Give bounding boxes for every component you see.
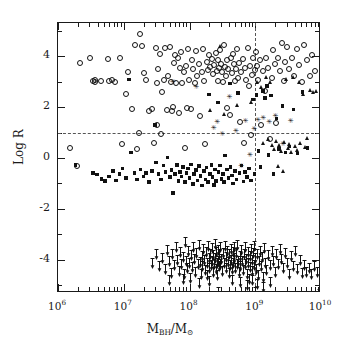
- data-point-down-arrow: [184, 256, 189, 267]
- data-point-filled-triangle: [295, 148, 299, 152]
- data-point-filled-square: [168, 175, 172, 179]
- data-point-down-arrow: [209, 260, 214, 271]
- x-minor-tick: [98, 287, 99, 291]
- data-point-open-circle: [202, 141, 208, 147]
- x-tick-label: 109: [232, 298, 276, 312]
- data-point-open-circle: [193, 48, 199, 54]
- data-point-open-circle: [146, 108, 152, 114]
- y-major-tick: [58, 56, 65, 57]
- x-minor-tick: [221, 23, 222, 27]
- data-point-filled-triangle: [303, 145, 307, 149]
- data-point-down-arrow: [217, 261, 222, 272]
- data-point-down-arrow: [221, 248, 226, 259]
- data-point-down-arrow: [247, 274, 252, 285]
- x-tick-label: 108: [167, 298, 211, 312]
- data-point-down-arrow: [197, 240, 202, 251]
- x-minor-tick: [78, 287, 79, 291]
- y-tick-label: -2: [19, 201, 50, 214]
- scatter-plot-figure: ✳✳✳✳✳✳✳✳✳✳✳✳✳✳✳✳✳ 1061071081091010 420-2…: [0, 0, 340, 347]
- data-point-down-arrow: [219, 254, 224, 265]
- data-point-open-circle: [250, 55, 256, 61]
- data-point-open-circle: [299, 79, 305, 85]
- data-point-filled-square: [118, 172, 122, 176]
- data-point-open-circle: [151, 140, 157, 146]
- data-point-star: ✳: [273, 114, 278, 119]
- data-point-filled-triangle: [222, 112, 226, 116]
- data-point-open-circle: [169, 108, 175, 114]
- data-point-open-circle: [119, 141, 125, 147]
- data-point-filled-square: [159, 178, 163, 182]
- x-minor-tick: [315, 23, 316, 27]
- y-major-tick: [312, 158, 319, 159]
- data-point-open-circle: [228, 55, 234, 61]
- data-point-open-circle: [98, 78, 104, 84]
- data-point-open-circle: [281, 78, 287, 84]
- x-minor-tick: [186, 287, 187, 291]
- data-point-filled-triangle: [261, 141, 265, 145]
- data-point-down-arrow: [230, 275, 235, 286]
- data-point-down-arrow: [258, 246, 263, 257]
- y-axis-title: Log R: [12, 102, 26, 192]
- data-point-down-arrow: [154, 249, 159, 260]
- data-point-open-circle: [291, 73, 297, 79]
- data-point-filled-square: [180, 175, 184, 179]
- data-point-filled-triangle: [279, 149, 283, 153]
- data-point-down-arrow: [224, 263, 229, 274]
- data-point-filled-square: [175, 163, 179, 167]
- data-point-down-arrow: [197, 278, 202, 289]
- data-point-open-circle: [248, 132, 254, 138]
- data-point-open-circle: [263, 55, 269, 61]
- data-point-filled-square: [288, 145, 292, 149]
- data-point-open-circle: [184, 105, 190, 111]
- data-point-open-circle: [243, 77, 249, 83]
- data-point-filled-square: [162, 164, 166, 168]
- data-point-open-circle: [178, 49, 184, 55]
- x-minor-tick: [163, 23, 164, 27]
- data-point-open-circle: [210, 71, 216, 77]
- x-minor-tick: [249, 23, 250, 27]
- data-point-open-circle: [224, 105, 230, 111]
- data-point-down-arrow: [252, 241, 257, 252]
- data-point-down-arrow: [263, 258, 268, 269]
- plot-area: ✳✳✳✳✳✳✳✳✳✳✳✳✳✳✳✳✳: [57, 22, 320, 292]
- data-point-filled-triangle: [235, 103, 239, 107]
- data-point-filled-triangle: [266, 137, 270, 141]
- data-point-filled-triangle: [297, 80, 301, 84]
- x-minor-tick: [183, 287, 184, 291]
- x-minor-tick: [78, 23, 79, 27]
- data-point-filled-square: [272, 172, 276, 176]
- data-point-star: ✳: [288, 119, 293, 124]
- x-minor-tick: [89, 287, 90, 291]
- data-point-filled-square: [204, 178, 208, 182]
- data-point-filled-triangle: [286, 146, 290, 150]
- data-point-open-circle: [109, 77, 115, 83]
- data-point-down-arrow: [193, 267, 198, 278]
- data-point-down-arrow: [240, 256, 245, 267]
- y-major-tick: [312, 107, 319, 108]
- data-point-down-arrow: [191, 242, 196, 253]
- data-point-filled-square: [247, 167, 251, 171]
- x-minor-tick: [114, 287, 115, 291]
- x-minor-tick: [311, 23, 312, 27]
- data-point-filled-triangle: [255, 80, 259, 84]
- data-point-down-arrow: [214, 264, 219, 275]
- data-point-down-arrow: [307, 263, 312, 274]
- data-point-open-circle: [219, 69, 225, 75]
- x-minor-tick: [245, 287, 246, 291]
- data-point-filled-square: [202, 169, 206, 173]
- data-point-filled-square: [181, 165, 185, 169]
- y-major-tick: [312, 209, 319, 210]
- data-point-down-arrow: [238, 251, 243, 262]
- data-point-open-circle: [189, 57, 195, 63]
- data-point-open-circle: [301, 42, 307, 48]
- data-point-open-circle: [162, 45, 168, 51]
- data-point-open-circle: [164, 107, 170, 113]
- data-point-down-arrow: [232, 242, 237, 253]
- data-point-down-arrow: [170, 249, 175, 260]
- data-point-down-arrow: [167, 275, 172, 286]
- data-point-down-arrow: [244, 254, 249, 265]
- x-minor-tick: [209, 287, 210, 291]
- data-point-down-arrow: [223, 241, 228, 252]
- data-point-down-arrow: [238, 261, 243, 272]
- data-point-open-circle: [265, 65, 271, 71]
